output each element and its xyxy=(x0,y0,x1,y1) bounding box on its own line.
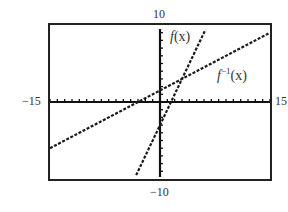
y-max-label: 10 xyxy=(153,8,165,20)
x-max-label: 15 xyxy=(275,95,287,107)
f-label: f(x) xyxy=(170,30,190,44)
f-inverse-label: f−1(x) xyxy=(217,67,247,83)
x-min-label: −15 xyxy=(22,95,41,107)
y-min-label: −10 xyxy=(150,186,169,198)
graph-canvas xyxy=(0,0,288,212)
f-label-arg: (x) xyxy=(174,29,190,44)
f-inverse-label-arg: (x) xyxy=(230,68,246,83)
